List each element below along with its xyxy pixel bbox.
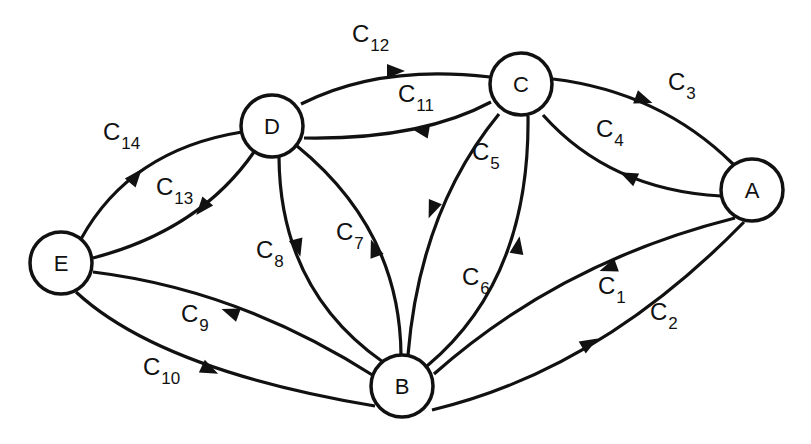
node-b: B xyxy=(371,355,433,417)
node-e: E xyxy=(30,232,92,294)
edge-c11 xyxy=(304,102,491,138)
edge-c9 xyxy=(93,272,374,376)
node-label: D xyxy=(264,114,280,139)
edge-c2 xyxy=(432,222,744,410)
edge-c7 xyxy=(297,146,401,355)
edge-label-c7: C7 xyxy=(336,218,364,253)
node-a: A xyxy=(721,159,783,221)
edge-c12 xyxy=(301,74,490,104)
edge-label-c6: C6 xyxy=(462,263,490,298)
edge-label-c1: C1 xyxy=(598,272,626,307)
node-d: D xyxy=(241,95,303,157)
edge-label-c11: C11 xyxy=(398,80,434,115)
node-label: B xyxy=(395,374,410,399)
edge-label-c2: C2 xyxy=(650,298,678,333)
edge-label-c5: C5 xyxy=(472,138,500,173)
node-label: E xyxy=(54,251,69,276)
graph-diagram: ABCDE C1C2C3C4C5C6C7C8C9C10C11C12C13C14 xyxy=(0,0,811,444)
edge-label-c3: C3 xyxy=(668,68,696,103)
node-label: A xyxy=(745,178,760,203)
graph-svg: ABCDE C1C2C3C4C5C6C7C8C9C10C11C12C13C14 xyxy=(0,0,811,444)
node-c: C xyxy=(490,53,552,115)
edge-label-c10: C10 xyxy=(143,353,180,388)
edge-label-c12: C12 xyxy=(352,20,389,55)
edge-label-c8: C8 xyxy=(256,236,284,271)
edge-label-c13: C13 xyxy=(156,173,193,208)
edge-label-c14: C14 xyxy=(103,118,140,153)
edge-c3 xyxy=(553,79,733,164)
node-label: C xyxy=(513,72,529,97)
edge-label-c9: C9 xyxy=(181,300,209,335)
arrowhead-icon xyxy=(617,166,639,186)
edge-label-c4: C4 xyxy=(596,115,624,150)
